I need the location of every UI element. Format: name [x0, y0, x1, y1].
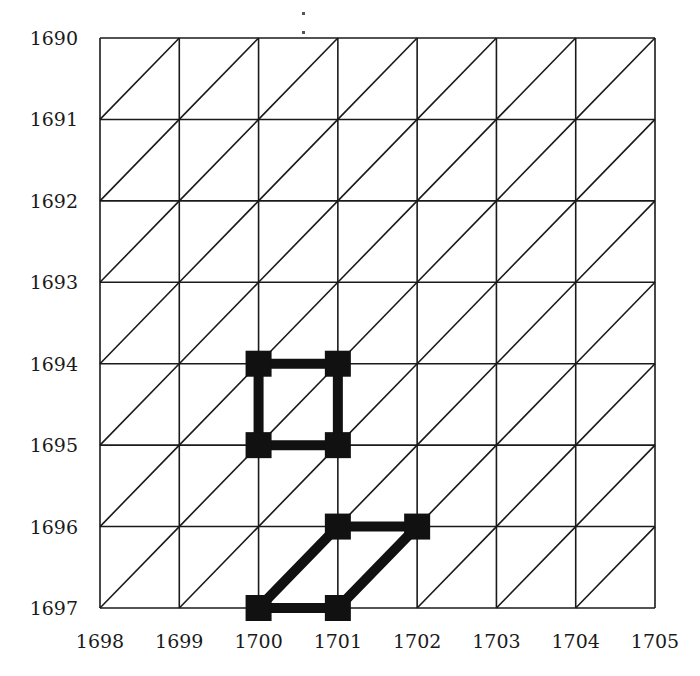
- grid-diagonal: [576, 282, 655, 363]
- grid-diagonal: [259, 119, 338, 200]
- grid-diagonal: [179, 201, 258, 282]
- grid-diagonal: [496, 38, 575, 119]
- grid-diagonal: [338, 119, 417, 200]
- grid-diagonal: [417, 282, 496, 363]
- x-tick-label: 1698: [65, 630, 135, 652]
- vertex-marker: [246, 432, 272, 458]
- grid-diagonal: [576, 364, 655, 445]
- vertex-marker: [325, 595, 351, 621]
- grid-diagonal: [338, 38, 417, 119]
- grid-diagonal: [576, 445, 655, 526]
- x-tick-label: 1702: [382, 630, 452, 652]
- vertex-marker: [246, 351, 272, 377]
- grid-diagonal: [100, 527, 179, 608]
- y-tick-label: 1692: [8, 190, 78, 212]
- grid-diagonal: [179, 119, 258, 200]
- x-tick-label: 1704: [541, 630, 611, 652]
- grid-diagonal: [576, 38, 655, 119]
- grid-diagonal: [496, 445, 575, 526]
- x-tick-label: 1705: [620, 630, 690, 652]
- grid-diagonal: [259, 38, 338, 119]
- grid-diagonal: [259, 201, 338, 282]
- grid-diagonal: [496, 119, 575, 200]
- grid-diagonal: [576, 119, 655, 200]
- y-tick-label: 1697: [8, 597, 78, 619]
- triangulated-grid-diagram: [0, 0, 700, 676]
- vertex-marker: [325, 514, 351, 540]
- y-tick-label: 1691: [8, 108, 78, 130]
- vertex-marker: [246, 595, 272, 621]
- grid-diagonal: [496, 364, 575, 445]
- grid-diagonal: [417, 364, 496, 445]
- vertex-marker: [404, 514, 430, 540]
- grid-diagonal: [100, 119, 179, 200]
- grid-diagonal: [100, 364, 179, 445]
- vertex-marker: [325, 432, 351, 458]
- grid-diagonal: [496, 527, 575, 608]
- x-tick-label: 1699: [144, 630, 214, 652]
- y-tick-label: 1696: [8, 516, 78, 538]
- y-tick-label: 1693: [8, 271, 78, 293]
- grid-diagonal: [100, 201, 179, 282]
- x-tick-label: 1700: [224, 630, 294, 652]
- grid-diagonal: [179, 38, 258, 119]
- grid-diagonal: [100, 282, 179, 363]
- grid-diagonal: [496, 282, 575, 363]
- x-tick-label: 1701: [303, 630, 373, 652]
- vertex-marker: [325, 351, 351, 377]
- grid-diagonal: [417, 119, 496, 200]
- grid-diagonal: [417, 201, 496, 282]
- grid-diagonal: [417, 38, 496, 119]
- grid-diagonal: [100, 38, 179, 119]
- y-tick-label: 1690: [8, 27, 78, 49]
- y-tick-label: 1694: [8, 353, 78, 375]
- x-tick-label: 1703: [461, 630, 531, 652]
- y-tick-label: 1695: [8, 434, 78, 456]
- grid-diagonal: [576, 201, 655, 282]
- grid-diagonal: [576, 527, 655, 608]
- grid-diagonal: [100, 445, 179, 526]
- grid-diagonal: [496, 201, 575, 282]
- grid-diagonal: [338, 201, 417, 282]
